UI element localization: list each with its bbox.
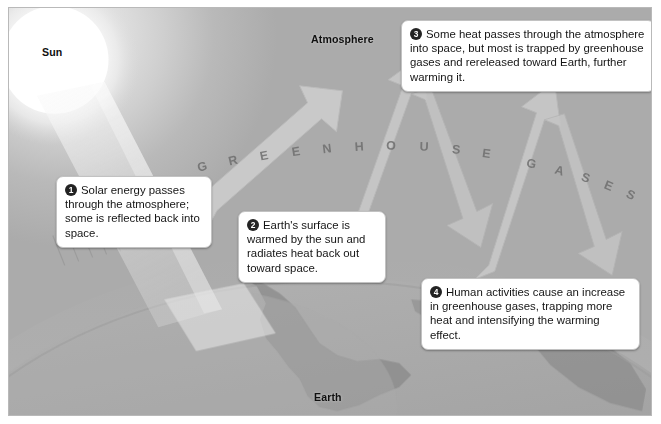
label-sun: Sun [42,46,62,58]
ghg-letter-4: N [322,141,333,156]
callout-step-1: 1Solar energy passes through the atmosph… [56,176,212,248]
ghg-letter-14: S [624,187,637,203]
callout-badge-4: 4 [430,286,442,298]
arrow-rereleased-heat-right [544,114,622,276]
label-atmosphere: Atmosphere [311,33,374,45]
callout-text-2: Earth's surface is warmed by the sun and… [247,219,365,274]
ghg-letter-9: E [481,146,491,161]
ghg-letter-1: R [227,153,239,169]
ghg-letter-8: S [452,142,461,157]
callout-text-4: Human activities cause an increase in gr… [430,286,625,341]
callout-step-3: 3Some heat passes through the atmosphere… [401,20,652,92]
callout-step-2: 2Earth's surface is warmed by the sun an… [238,211,386,283]
callout-text-1: Solar energy passes through the atmosphe… [65,184,200,239]
callout-badge-2: 2 [247,219,259,231]
label-earth: Earth [314,391,342,403]
greenhouse-effect-figure: GREENHOUSEGASES Sun Atmosphere Earth 1So… [0,0,661,424]
ghg-letter-10: G [525,156,538,172]
ghg-letter-7: U [419,139,428,153]
ghg-letter-0: G [196,159,209,175]
ghg-letter-13: E [602,178,615,194]
ghg-letter-11: A [553,163,565,179]
arrow-rereleased-heat-middle [411,88,493,248]
callout-badge-1: 1 [65,184,77,196]
ghg-letter-6: O [386,139,396,153]
arrow-outgoing-heat-right [475,82,561,280]
ghg-letter-5: H [354,139,364,154]
ghg-letter-3: E [291,144,301,159]
diagram-scene: GREENHOUSEGASES Sun Atmosphere Earth 1So… [8,7,652,416]
callout-text-3: Some heat passes through the atmosphere … [410,28,644,83]
callout-step-4: 4Human activities cause an increase in g… [421,278,640,350]
callout-badge-3: 3 [410,28,422,40]
